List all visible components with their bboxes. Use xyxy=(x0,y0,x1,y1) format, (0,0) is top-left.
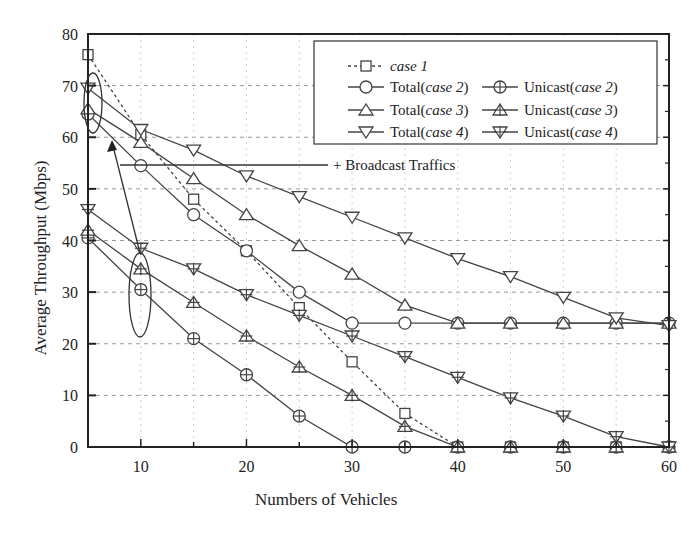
square-marker-icon xyxy=(347,357,357,367)
legend-label: Total(case 2) xyxy=(390,79,469,96)
legend: case 1Total(case 2)Total(case 3)Total(ca… xyxy=(314,41,657,144)
x-axis-label: Numbers of Vehicles xyxy=(255,490,397,509)
y-tick-label: 80 xyxy=(62,26,78,43)
triangle-up-marker-icon xyxy=(398,299,412,310)
triangle-down-marker-icon xyxy=(556,292,570,303)
triangle-down-plus-marker-icon xyxy=(609,431,623,443)
square-marker-icon xyxy=(361,61,371,71)
triangle-down-plus-marker-icon xyxy=(556,410,570,422)
triangle-down-plus-marker-icon xyxy=(187,263,201,275)
circle-plus-marker-icon xyxy=(293,410,305,422)
series-unicast-case-3- xyxy=(81,224,676,453)
y-tick-label: 20 xyxy=(62,336,78,353)
x-tick-label: 40 xyxy=(450,458,466,475)
circle-marker-icon xyxy=(240,245,252,257)
triangle-up-marker-icon xyxy=(239,209,253,220)
legend-item-total-case-2: Total(case 2) xyxy=(348,79,469,96)
triangle-down-marker-icon xyxy=(504,272,518,283)
square-marker-icon xyxy=(400,408,410,418)
triangle-down-marker-icon xyxy=(187,145,201,156)
y-tick-label: 50 xyxy=(62,181,78,198)
circle-plus-marker-icon xyxy=(135,284,147,296)
triangle-down-plus-marker-icon xyxy=(292,309,306,321)
triangle-down-marker-icon xyxy=(239,171,253,182)
x-tick-labels: 102030405060 xyxy=(133,458,677,475)
triangle-down-plus-marker-icon xyxy=(451,371,465,383)
triangle-down-plus-marker-icon xyxy=(504,392,518,404)
series-unicast-case-2- xyxy=(82,232,675,453)
legend-item-total-case-4: Total(case 4) xyxy=(348,124,469,141)
y-tick-label: 60 xyxy=(62,129,78,146)
triangle-up-plus-marker-icon xyxy=(239,330,253,342)
triangle-down-plus-marker-icon xyxy=(239,289,253,301)
y-tick-label: 0 xyxy=(70,439,78,456)
y-tick-label: 70 xyxy=(62,78,78,95)
triangle-down-marker-icon xyxy=(345,212,359,223)
legend-label: Unicast(case 3) xyxy=(524,102,618,119)
triangle-up-plus-marker-icon xyxy=(345,389,359,401)
x-tick-label: 30 xyxy=(344,458,360,475)
annotation-text: + Broadcast Traffics xyxy=(333,157,455,173)
chart: 01020304050607080 102030405060 Numbers o… xyxy=(0,0,681,533)
circle-marker-icon xyxy=(188,209,200,221)
x-tick-label: 50 xyxy=(555,458,571,475)
triangle-down-plus-marker-icon xyxy=(398,351,412,363)
legend-label: Unicast(case 4) xyxy=(524,124,618,141)
legend-label: case 1 xyxy=(390,58,428,74)
ellipse-total xyxy=(84,73,102,133)
circle-plus-marker-icon xyxy=(494,81,506,93)
x-tick-label: 20 xyxy=(238,458,254,475)
y-axis-label: Average Throughput (Mbps) xyxy=(31,161,50,356)
circle-plus-marker-icon xyxy=(240,369,252,381)
circle-marker-icon xyxy=(346,317,358,329)
triangle-up-marker-icon xyxy=(292,240,306,251)
circle-marker-icon xyxy=(360,81,372,93)
y-tick-labels: 01020304050607080 xyxy=(62,26,78,456)
y-tick-label: 10 xyxy=(62,387,78,404)
y-tick-label: 30 xyxy=(62,284,78,301)
triangle-up-plus-marker-icon xyxy=(398,420,412,432)
legend-label: Total(case 4) xyxy=(390,124,469,141)
legend-label: Unicast(case 2) xyxy=(524,79,618,96)
square-marker-icon xyxy=(189,194,199,204)
triangle-down-marker-icon xyxy=(398,233,412,244)
circle-marker-icon xyxy=(293,286,305,298)
triangle-up-plus-marker-icon xyxy=(187,296,201,308)
circle-marker-icon xyxy=(399,317,411,329)
circle-plus-marker-icon xyxy=(188,333,200,345)
triangle-up-marker-icon xyxy=(187,173,201,184)
triangle-down-plus-marker-icon xyxy=(345,330,359,342)
x-tick-label: 60 xyxy=(661,458,677,475)
triangle-up-plus-marker-icon xyxy=(292,361,306,373)
triangle-down-marker-icon xyxy=(451,254,465,265)
legend-label: Total(case 3) xyxy=(390,102,469,119)
annotation-arrow xyxy=(112,142,140,253)
triangle-up-marker-icon xyxy=(345,268,359,279)
x-tick-label: 10 xyxy=(133,458,149,475)
triangle-down-marker-icon xyxy=(292,192,306,203)
y-tick-label: 40 xyxy=(62,233,78,250)
